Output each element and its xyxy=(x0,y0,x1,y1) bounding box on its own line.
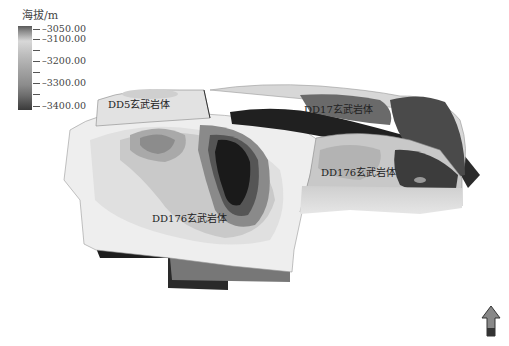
label-dd176-basalt-left: DD176玄武岩体 xyxy=(152,210,227,225)
label-dd5-basalt: DD5玄武岩体 xyxy=(108,96,170,111)
3d-surface-view xyxy=(0,0,509,346)
surface-dd176-left xyxy=(64,112,318,272)
label-dd17-basalt: DD17玄武岩体 xyxy=(304,101,373,116)
label-dd176-basalt-right: DD176玄武岩体 xyxy=(321,164,396,179)
north-arrow-icon xyxy=(482,306,500,336)
